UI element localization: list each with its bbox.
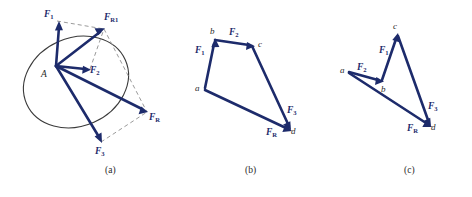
panel-c-point-d: d: [431, 123, 436, 132]
panel-b-graphics: [205, 38, 292, 132]
panel-b-point-d: d: [291, 127, 296, 136]
force-composition-figure: F1 FR1 A F2 FR F3 (a) b F2 c F1 a F3 FR …: [0, 0, 472, 197]
panel-a-label-fr1: FR1: [104, 13, 118, 23]
panel-a-graphics: [9, 20, 148, 144]
panel-b-caption: (b): [245, 166, 256, 176]
panel-c-label-f3: F3: [428, 102, 438, 112]
panel-a-label-f1: F1: [44, 10, 54, 20]
construction-line-f1-fr1: [57, 21, 104, 29]
panel-b-vector-f3-line: [252, 46, 288, 124]
panel-c-point-a: a: [340, 66, 345, 75]
panel-c-point-b: b: [381, 85, 386, 94]
panel-a-label-f2: F2: [90, 66, 100, 76]
panel-b-label-f1: F1: [195, 46, 205, 56]
panel-a-label-f3: F3: [95, 147, 105, 157]
panel-b-point-a: a: [195, 84, 200, 93]
panel-a-label-fr: FR: [149, 113, 160, 123]
body-outline-ellipse: [9, 20, 143, 144]
panel-a-label-point-a: A: [41, 70, 47, 80]
panel-c-label-f1: F1: [379, 46, 389, 56]
panel-b-label-f3: F3: [287, 106, 297, 116]
vector-f1-line: [56, 27, 59, 66]
panel-b-label-fr: FR: [266, 128, 277, 138]
panel-c-label-f2: F2: [357, 63, 367, 73]
panel-c-point-c: c: [393, 22, 397, 31]
panel-b-vector-f1-line: [205, 44, 214, 88]
panel-c-label-fr: FR: [407, 124, 418, 134]
panel-c-graphics: [349, 33, 432, 127]
vector-fr1-line: [56, 32, 100, 66]
vector-f1-head: [55, 21, 63, 31]
panel-b-point-c: c: [258, 40, 262, 49]
construction-line-f3-fr: [101, 112, 147, 142]
panel-b-point-b: b: [210, 27, 215, 36]
panel-b-label-f2: F2: [229, 28, 239, 38]
panel-c-caption: (c): [404, 166, 415, 176]
panel-b-vector-f2-line: [215, 40, 249, 45]
panel-a-caption: (a): [105, 166, 116, 176]
